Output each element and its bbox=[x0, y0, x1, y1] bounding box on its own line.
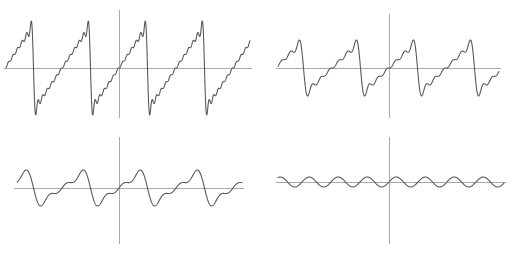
panel-top-right bbox=[256, 0, 512, 127]
top-left-plot-svg bbox=[0, 0, 256, 127]
bottom-right-plot-svg bbox=[256, 127, 512, 254]
panel-top-left bbox=[0, 0, 256, 127]
top-right-plot-svg bbox=[256, 0, 512, 127]
panel-bottom-left bbox=[0, 127, 256, 254]
panel-bottom-right bbox=[256, 127, 512, 254]
waveform-figure bbox=[0, 0, 512, 254]
bottom-left-plot-svg bbox=[0, 127, 256, 254]
